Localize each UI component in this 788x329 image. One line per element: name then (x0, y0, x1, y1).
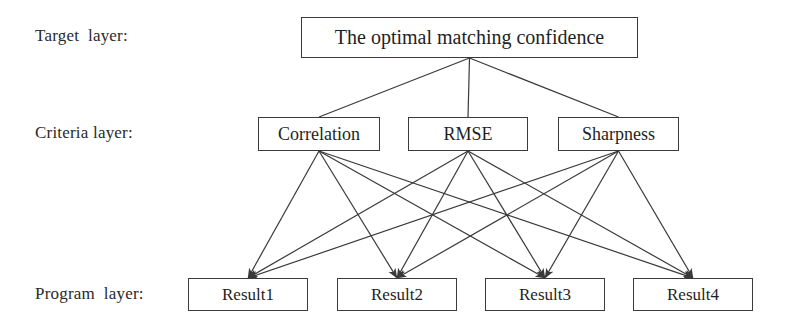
node-program-result1[interactable]: Result1 (188, 278, 308, 311)
edge-group-criteria-to-program (248, 151, 693, 278)
node-criteria-rmse[interactable]: RMSE (408, 117, 528, 151)
edge-criteria-3-to-program-3 (545, 151, 618, 278)
layer-label-program: Program layer: (35, 284, 144, 304)
node-program-result3[interactable]: Result3 (485, 278, 605, 311)
layer-label-target: Target layer: (35, 26, 128, 46)
edge-criteria-2-to-program-4 (468, 151, 693, 278)
edge-target-1-to-criteria-3 (470, 58, 619, 117)
edge-group-target-to-criteria (319, 58, 619, 117)
edge-target-1-to-criteria-1 (319, 58, 470, 117)
edge-criteria-2-to-program-3 (468, 151, 545, 278)
node-program-result2[interactable]: Result2 (337, 278, 457, 311)
edge-criteria-1-to-program-1 (248, 151, 319, 278)
node-criteria-correlation[interactable]: Correlation (258, 117, 380, 151)
edge-criteria-3-to-program-1 (248, 151, 618, 278)
edge-target-1-to-criteria-2 (468, 58, 470, 117)
layer-label-criteria: Criteria layer: (35, 123, 133, 143)
edge-criteria-3-to-program-4 (619, 151, 693, 278)
node-criteria-sharpness[interactable]: Sharpness (558, 117, 679, 151)
node-target-optimal-matching-confidence[interactable]: The optimal matching confidence (301, 17, 638, 58)
node-program-result4[interactable]: Result4 (633, 278, 753, 311)
